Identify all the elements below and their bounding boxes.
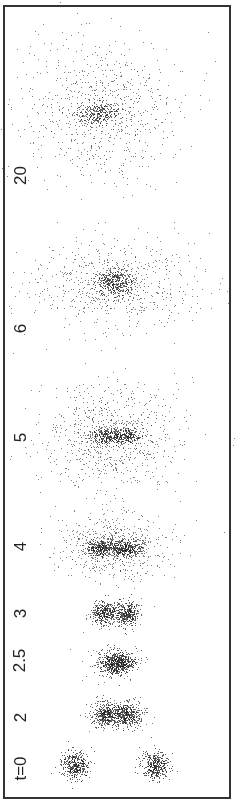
time-label: 3 (12, 608, 29, 617)
time-label: 2.5 (11, 648, 28, 672)
time-label: t=0 (12, 756, 29, 780)
time-label: 2 (12, 712, 29, 721)
time-label: 5 (12, 432, 29, 441)
scatter-plot (0, 0, 245, 803)
time-label: 4 (12, 541, 29, 550)
time-label: 20 (11, 166, 28, 185)
time-label: 6 (12, 323, 29, 332)
